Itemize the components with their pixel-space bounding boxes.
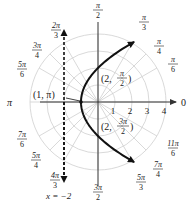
angle-label-11pi-over-6: 11π6 xyxy=(167,139,179,158)
svg-text:6: 6 xyxy=(20,140,24,149)
angle-label-7pi-over-4: 7π4 xyxy=(153,160,163,179)
svg-text:(2,: (2, xyxy=(101,73,112,85)
polar-axis-zero-label: 0 xyxy=(181,97,186,108)
angle-label-pi-over-6: π6 xyxy=(168,55,178,74)
svg-text:2: 2 xyxy=(96,193,100,202)
svg-text:3: 3 xyxy=(142,23,146,32)
svg-text:3π: 3π xyxy=(32,41,42,50)
svg-text:11π: 11π xyxy=(167,139,179,148)
svg-text:π: π xyxy=(142,13,147,22)
svg-text:3: 3 xyxy=(54,31,58,40)
svg-text:5π: 5π xyxy=(137,173,146,182)
svg-text:6: 6 xyxy=(20,70,24,79)
angle-label-4pi-over-3: 4π3 xyxy=(50,171,60,190)
angle-label-7pi-over-6: 7π6 xyxy=(17,130,27,149)
angle-label-pi-over-3: π3 xyxy=(139,13,149,32)
angle-label-2pi-over-3: 2π3 xyxy=(51,21,61,40)
polar-diagram: 1 2 3 4 0 π x = −2 (1, π) (2, π 2 ) (2, … xyxy=(0,0,189,202)
svg-text:3: 3 xyxy=(145,106,150,116)
angle-label-5pi-over-3: 5π3 xyxy=(136,173,146,192)
svg-text:): ) xyxy=(130,121,133,133)
svg-text:5π: 5π xyxy=(18,60,27,69)
svg-text:2: 2 xyxy=(128,106,133,116)
svg-text:π: π xyxy=(171,55,176,64)
directrix-label: x = −2 xyxy=(45,191,72,201)
angle-label-pi-over-2: π2 xyxy=(93,1,103,20)
angle-label-3pi-over-4: 3π4 xyxy=(32,41,42,60)
svg-text:4π: 4π xyxy=(51,171,60,180)
svg-text:3π: 3π xyxy=(118,117,128,126)
svg-text:π: π xyxy=(96,1,101,10)
svg-text:(2,: (2, xyxy=(101,121,112,133)
svg-text:): ) xyxy=(128,73,131,85)
point-label-1-pi: (1, π) xyxy=(33,89,55,101)
svg-text:2: 2 xyxy=(121,127,125,136)
svg-text:6: 6 xyxy=(171,149,175,158)
svg-text:2: 2 xyxy=(96,11,100,20)
angle-label-5pi-over-6: 5π6 xyxy=(17,60,27,79)
vertex-label-leader xyxy=(66,98,80,101)
svg-text:4: 4 xyxy=(162,106,167,116)
svg-text:3π: 3π xyxy=(93,183,103,192)
svg-text:4: 4 xyxy=(156,170,160,179)
svg-text:4: 4 xyxy=(34,161,38,170)
svg-text:π: π xyxy=(120,69,125,78)
pi-axis-label: π xyxy=(7,97,13,108)
svg-text:7π: 7π xyxy=(18,130,27,139)
svg-text:4: 4 xyxy=(157,47,161,56)
svg-text:6: 6 xyxy=(171,65,175,74)
svg-text:1: 1 xyxy=(111,106,116,116)
svg-text:7π: 7π xyxy=(154,160,163,169)
svg-text:π: π xyxy=(157,37,162,46)
svg-text:4: 4 xyxy=(35,51,39,60)
svg-text:2: 2 xyxy=(120,79,124,88)
angle-label-5pi-over-4: 5π4 xyxy=(31,151,41,170)
angle-label-3pi-over-2: 3π2 xyxy=(93,183,103,202)
svg-text:3: 3 xyxy=(139,183,143,192)
svg-text:5π: 5π xyxy=(32,151,41,160)
svg-text:3: 3 xyxy=(53,181,57,190)
svg-text:2π: 2π xyxy=(52,21,61,30)
angle-label-pi-over-4: π4 xyxy=(154,37,164,56)
